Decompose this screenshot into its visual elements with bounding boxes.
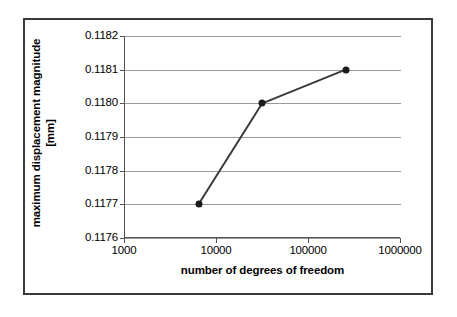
y-axis-tick-labels: 0.11760.11770.11780.11790.11800.11810.11…: [56, 36, 118, 238]
plot-area: [124, 36, 400, 238]
x-tick-mark: [400, 238, 401, 243]
y-axis-title: maximum displacement magnitude [mm]: [26, 18, 60, 248]
y-tick-label: 0.1178: [85, 164, 118, 176]
y-tick-label: 0.1177: [85, 197, 118, 209]
data-point-marker: [342, 66, 349, 73]
x-tick-label: 1000000: [378, 244, 421, 256]
y-tick-label: 0.1181: [85, 63, 118, 75]
y-tick-label: 0.1176: [85, 231, 118, 243]
data-series-line: [125, 36, 401, 238]
x-tick-label: 10000: [201, 244, 232, 256]
x-axis-title: number of degrees of freedom: [124, 264, 401, 276]
x-axis-tick-labels: 1000100001000001000000: [124, 244, 401, 260]
x-tick-label: 100000: [289, 244, 326, 256]
x-tick-label: 1000: [112, 244, 137, 256]
x-tick-mark: [308, 238, 309, 243]
x-tick-mark: [216, 238, 217, 243]
data-point-marker: [259, 100, 266, 107]
data-point-marker: [195, 201, 202, 208]
x-tick-mark: [124, 238, 125, 243]
y-axis-title-line1: maximum displacement magnitude: [30, 39, 42, 228]
y-axis-title-line2: [mm]: [44, 119, 56, 147]
chart-figure: maximum displacement magnitude [mm] 0.11…: [0, 0, 457, 317]
y-tick-label: 0.1182: [85, 29, 118, 41]
y-tick-label: 0.1179: [85, 130, 118, 142]
y-tick-label: 0.1180: [85, 96, 118, 108]
